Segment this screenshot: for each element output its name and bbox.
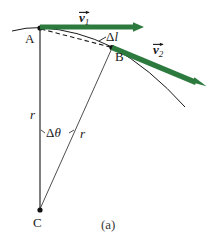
vector-label-v2: v 2 xyxy=(153,43,163,59)
vector-arrow-accent-v2 xyxy=(153,43,164,50)
vector-arrow-accent-v1 xyxy=(79,11,90,18)
chord-ab-dashed xyxy=(41,29,112,48)
vector-label-v1-subscript: 1 xyxy=(85,17,90,27)
annotation-delta-theta: Δθ xyxy=(46,126,61,139)
vector-label-v2-subscript: 2 xyxy=(159,49,164,59)
delta-theta-tick-right xyxy=(69,130,74,133)
delta-l-leader-line xyxy=(99,37,106,41)
vector-label-v1-body: v xyxy=(79,11,85,24)
point-label-b: B xyxy=(115,50,124,63)
vector-label-v1: v 1 xyxy=(79,11,89,27)
delta-theta-variable: θ xyxy=(54,125,60,140)
delta-theta-tick-left xyxy=(41,130,45,133)
delta-l-variable: l xyxy=(114,29,118,44)
radius-label-left: r xyxy=(30,108,35,121)
figure-caption: (a) xyxy=(101,218,115,231)
centripetal-acceleration-figure: A B C v 1 v 2 Δl Δθ r r (a) xyxy=(0,0,217,247)
annotation-delta-l: Δl xyxy=(106,30,118,43)
vector-label-v2-body: v xyxy=(153,43,159,56)
point-dot-c xyxy=(37,207,42,212)
radius-label-right: r xyxy=(80,127,85,140)
velocity-vector-v1-arrow xyxy=(40,22,144,32)
point-label-c: C xyxy=(33,216,42,229)
point-label-a: A xyxy=(25,32,34,45)
